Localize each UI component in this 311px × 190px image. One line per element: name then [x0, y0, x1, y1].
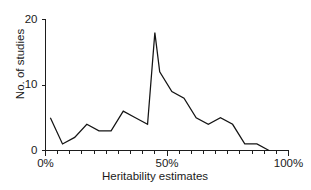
y-axis-ticks: [42, 20, 46, 151]
series-line-no-of-studies: [50, 33, 269, 151]
y-axis-title: No. of studies: [14, 4, 26, 124]
axes: [46, 20, 289, 151]
x-axis-ticks: [46, 151, 289, 156]
x-tick-label: 50%: [137, 158, 197, 170]
heritability-line-chart: 01020 0%50%100% Heritability estimates N…: [0, 0, 310, 190]
x-axis-title: Heritability estimates: [0, 170, 310, 182]
axis-lines: [46, 20, 289, 151]
x-tick-label: 100%: [259, 158, 311, 170]
data-series-group: [50, 33, 269, 151]
x-tick-label: 0%: [16, 158, 76, 170]
y-tick-label: 0: [0, 145, 38, 157]
